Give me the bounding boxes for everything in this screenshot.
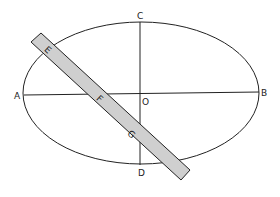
label-A: A — [14, 91, 21, 101]
trammel-strip — [31, 33, 190, 180]
label-C: C — [137, 11, 143, 21]
label-O: O — [142, 97, 149, 107]
label-B: B — [261, 88, 267, 98]
ellipse-diagram: A B C D O E F G — [0, 0, 280, 197]
label-D: D — [138, 168, 145, 178]
major-axis-AB — [24, 92, 259, 95]
